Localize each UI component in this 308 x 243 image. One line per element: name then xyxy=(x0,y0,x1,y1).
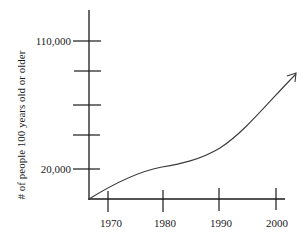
data-line xyxy=(89,74,296,199)
line-chart: 110,000 20,000 1970 1980 1990 2000 # of … xyxy=(0,0,308,243)
chart-svg: 110,000 20,000 1970 1980 1990 2000 # of … xyxy=(0,0,308,243)
y-axis-title: # of people 100 years old or older xyxy=(15,50,27,199)
y-tick-label-110000: 110,000 xyxy=(36,35,72,47)
x-tick-label-1990: 1990 xyxy=(210,217,233,229)
x-tick-label-1980: 1980 xyxy=(154,217,177,229)
arrow-head-icon xyxy=(287,73,296,82)
x-tick-label-1970: 1970 xyxy=(100,217,123,229)
y-tick-label-20000: 20,000 xyxy=(41,163,72,175)
x-tick-label-2000: 2000 xyxy=(266,217,289,229)
